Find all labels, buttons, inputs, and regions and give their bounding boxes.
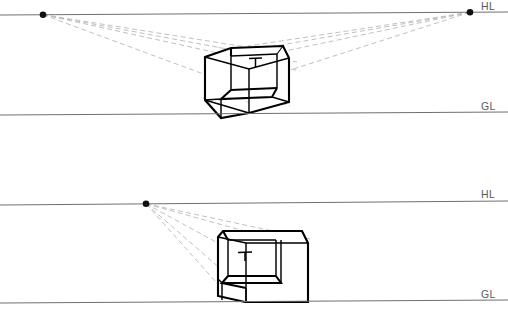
- horizon-line-label-bottom: HL: [481, 188, 495, 200]
- box-interior-back-wall: [231, 54, 277, 90]
- notch-left-ledge-edge: [205, 99, 221, 100]
- notched-box-two-point: [205, 46, 289, 118]
- ground-line-label-top: GL: [481, 100, 496, 112]
- horizon-line-label-top: HL: [481, 0, 495, 12]
- vanishing-point-center: [143, 201, 150, 208]
- construction-ray: [43, 15, 246, 47]
- notched-box-one-point: [218, 231, 308, 302]
- diagram-one-point-perspective: HL GL: [0, 188, 508, 303]
- box-interior-back-wall: [228, 240, 276, 276]
- vanishing-point-right: [467, 9, 474, 16]
- construction-ray: [248, 12, 470, 46]
- perspective-diagram-canvas: HL GL: [0, 0, 508, 317]
- horizon-line-top-diagram: [0, 12, 508, 15]
- perspective-drawing-page: HL GL: [0, 0, 508, 317]
- vanishing-point-left: [40, 11, 47, 18]
- ground-line-label-bottom: GL: [481, 288, 496, 300]
- diagram-two-point-perspective: HL GL: [0, 0, 508, 118]
- horizon-line-bottom-diagram: [0, 201, 508, 205]
